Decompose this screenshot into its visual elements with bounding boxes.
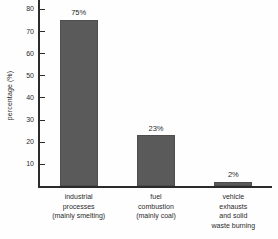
y-axis-tick-label: 70 [14,28,34,35]
category-label-line: and solid [195,211,272,221]
bar-value-label: 75% [71,9,86,17]
y-axis-tick-label: 50 [14,72,34,79]
category-label-line: fuel [117,192,194,202]
bar [214,182,252,186]
y-axis-tick-label: 20 [14,138,34,145]
bar-group: 75% [60,0,98,186]
x-axis-category-label: industrialprocesses(mainly smelting) [40,192,117,221]
x-axis-category-label: vehicleexhaustsand solidwaste burning [195,192,272,230]
x-axis-category-labels: industrialprocesses(mainly smelting)fuel… [40,192,272,239]
bar-group: 2% [214,0,252,186]
y-axis-tick-label: 30 [14,116,34,123]
bar-chart: percentage (%) 1020304050607080 75%23%2%… [0,0,278,239]
y-axis-tick-label: 60 [14,50,34,57]
bar [60,20,98,186]
category-label-line: vehicle [195,192,272,202]
category-label-line: industrial [40,192,117,202]
bar-value-label: 2% [228,171,239,179]
category-label-line: exhausts [195,202,272,212]
x-axis-category-label: fuelcombustion(mainly coal) [117,192,194,221]
bar-group: 23% [137,0,175,186]
category-label-line: combustion [117,202,194,212]
y-axis-tick-label: 80 [14,5,34,12]
category-label-line: waste burning [195,221,272,231]
bar-value-label: 23% [148,125,163,133]
x-axis-line [38,186,272,188]
plot-area: 75%23%2% [40,0,272,186]
category-label-line: processes [40,202,117,212]
category-label-line: (mainly smelting) [40,211,117,221]
y-axis-tick-label: 40 [14,94,34,101]
category-label-line: (mainly coal) [117,211,194,221]
bar [137,135,175,186]
y-axis-tick-label: 10 [14,160,34,167]
